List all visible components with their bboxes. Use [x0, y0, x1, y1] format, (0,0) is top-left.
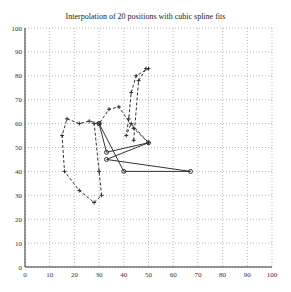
svg-text:40: 40: [15, 168, 23, 176]
chart-plot: 0102030405060708090100010203040506070809…: [0, 0, 291, 292]
svg-text:80: 80: [15, 72, 23, 80]
svg-text:60: 60: [170, 271, 178, 279]
svg-text:50: 50: [145, 271, 153, 279]
svg-text:40: 40: [120, 271, 128, 279]
svg-text:10: 10: [46, 271, 54, 279]
svg-text:100: 100: [12, 25, 23, 33]
svg-text:70: 70: [15, 96, 23, 104]
svg-text:100: 100: [267, 271, 278, 279]
svg-text:50: 50: [15, 144, 23, 152]
svg-text:90: 90: [244, 271, 252, 279]
svg-text:30: 30: [15, 192, 23, 200]
svg-text:20: 20: [71, 271, 79, 279]
svg-text:0: 0: [23, 271, 27, 279]
svg-text:20: 20: [15, 216, 23, 224]
svg-text:80: 80: [219, 271, 227, 279]
svg-text:70: 70: [194, 271, 202, 279]
svg-text:10: 10: [15, 240, 23, 248]
svg-text:60: 60: [15, 120, 23, 128]
svg-text:0: 0: [19, 264, 23, 272]
svg-text:30: 30: [96, 271, 104, 279]
svg-text:90: 90: [15, 48, 23, 56]
